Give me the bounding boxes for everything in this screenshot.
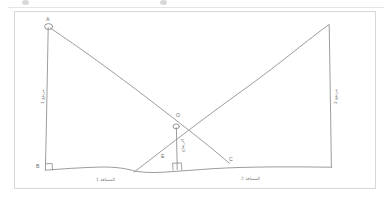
point-label-a: A	[46, 17, 50, 22]
ground-line	[45, 167, 331, 173]
point-label-o: O	[176, 113, 180, 118]
point-label-e: E	[161, 154, 165, 159]
descending-sight-line	[51, 28, 230, 163]
segment-label-right-vertical: مرتفع 2	[334, 89, 338, 104]
right-vertical-line	[329, 25, 331, 167]
segment-label-baseline-left: المسافة 1	[96, 178, 115, 182]
segment-label-left-vertical: مرتفع 1	[41, 89, 45, 104]
point-label-b: B	[36, 164, 40, 169]
right-angle-marker-b	[46, 164, 53, 170]
segment-label-perpendicular: الارتفاع	[181, 139, 185, 152]
segment-label-baseline-right: المسافة 2	[241, 177, 260, 181]
left-vertical-line	[45, 28, 48, 170]
ascending-sight-line	[134, 25, 329, 173]
point-label-c: C	[229, 157, 233, 162]
screenshot-page: A B O C E مرتفع 1 المسافة 1 الارتفاع الم…	[0, 0, 392, 200]
